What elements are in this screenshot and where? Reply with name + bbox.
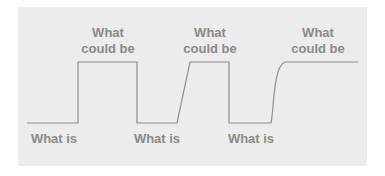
label-line: What <box>178 25 242 41</box>
waveform-line <box>27 62 358 123</box>
label-what-is-2: What is <box>131 131 183 147</box>
label-line: could be <box>76 41 140 57</box>
label-line: could be <box>178 41 242 57</box>
label-what-could-be-2: What could be <box>178 25 242 57</box>
label-line: could be <box>286 41 350 57</box>
label-what-is-1: What is <box>28 131 80 147</box>
label-what-could-be-3: What could be <box>286 25 350 57</box>
label-line: What <box>76 25 140 41</box>
label-line: What <box>286 25 350 41</box>
label-what-is-3: What is <box>225 131 277 147</box>
label-what-could-be-1: What could be <box>76 25 140 57</box>
